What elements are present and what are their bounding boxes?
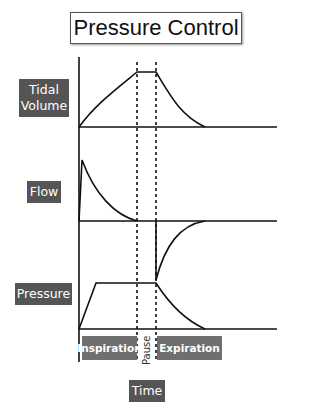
pause-phase-label: Pause — [141, 336, 152, 365]
expiration-phase-label: Expiration — [157, 336, 222, 360]
inspiration-phase-label: Inspiration — [82, 336, 137, 360]
